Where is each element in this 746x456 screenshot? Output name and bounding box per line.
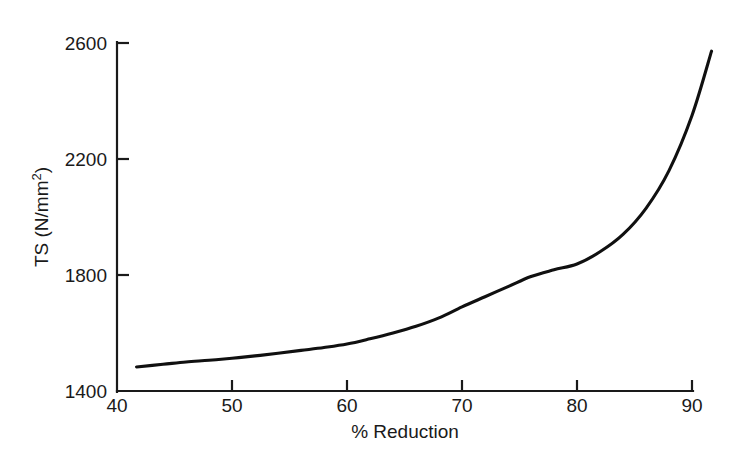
y-axis-title: TS (N/mm2) [29, 167, 52, 267]
y-tick-label-1400: 1400 [65, 381, 107, 402]
x-tick-label-80: 80 [566, 395, 587, 416]
chart-svg: 2600 2200 1800 1400 40 50 60 70 80 90 % … [0, 0, 746, 456]
data-series-curve [137, 51, 712, 367]
svg-text:TS (N/mm2): TS (N/mm2) [29, 167, 52, 267]
x-tick-label-50: 50 [221, 395, 242, 416]
y-axis-title-superscript: 2 [29, 173, 44, 180]
chart-figure: 2600 2200 1800 1400 40 50 60 70 80 90 % … [0, 0, 746, 456]
x-tick-label-60: 60 [336, 395, 357, 416]
x-tick-label-90: 90 [681, 395, 702, 416]
x-axis-title: % Reduction [351, 421, 459, 442]
x-tick-label-40: 40 [106, 395, 127, 416]
y-tick-label-1800: 1800 [65, 265, 107, 286]
y-axis-title-main: TS (N/mm [31, 181, 52, 268]
y-tick-label-2200: 2200 [65, 149, 107, 170]
y-tick-label-2600: 2600 [65, 33, 107, 54]
y-axis-title-close: ) [31, 167, 52, 173]
x-tick-label-70: 70 [451, 395, 472, 416]
